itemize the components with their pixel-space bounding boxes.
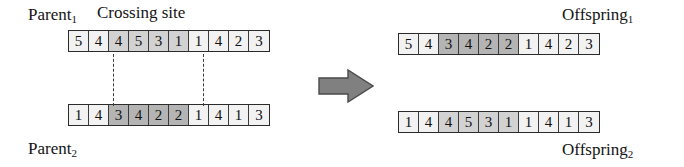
transformation-arrow-icon xyxy=(318,68,374,104)
chromosome-offspring2: 1445311413 xyxy=(398,111,600,133)
parent1-label-text: Parent xyxy=(28,5,71,24)
gene-cell: 3 xyxy=(249,31,269,51)
gene-cell: 5 xyxy=(129,31,149,51)
gene-cell: 1 xyxy=(69,105,89,125)
crossing-site-line-2 xyxy=(203,54,204,106)
gene-cell: 3 xyxy=(249,105,269,125)
gene-cell: 3 xyxy=(579,112,599,132)
offspring2-label-text: Offspring xyxy=(562,140,628,159)
parent1-label: Parent1 xyxy=(28,6,77,23)
gene-cell: 3 xyxy=(579,34,599,54)
gene-cell: 4 xyxy=(209,31,229,51)
gene-cell: 3 xyxy=(149,31,169,51)
gene-cell: 1 xyxy=(189,105,209,125)
offspring1-label-subscript: 1 xyxy=(628,13,634,25)
offspring1-label-text: Offspring xyxy=(562,5,628,24)
gene-cell: 4 xyxy=(539,34,559,54)
gene-cell: 4 xyxy=(129,105,149,125)
gene-cell: 2 xyxy=(229,31,249,51)
gene-cell: 3 xyxy=(109,105,129,125)
chromosome-parent2: 1434221413 xyxy=(68,104,270,126)
gene-cell: 1 xyxy=(169,31,189,51)
gene-cell: 4 xyxy=(419,34,439,54)
gene-cell: 4 xyxy=(539,112,559,132)
crossing-site-line-1 xyxy=(113,54,114,106)
gene-cell: 4 xyxy=(419,112,439,132)
gene-cell: 2 xyxy=(479,34,499,54)
gene-cell: 5 xyxy=(399,34,419,54)
gene-cell: 4 xyxy=(89,31,109,51)
gene-cell: 2 xyxy=(499,34,519,54)
offspring2-label: Offspring2 xyxy=(562,141,633,158)
gene-cell: 1 xyxy=(499,112,519,132)
gene-cell: 1 xyxy=(519,34,539,54)
parent2-label: Parent2 xyxy=(28,140,77,157)
gene-cell: 4 xyxy=(109,31,129,51)
gene-cell: 2 xyxy=(169,105,189,125)
offspring1-label: Offspring1 xyxy=(562,6,633,23)
gene-cell: 5 xyxy=(69,31,89,51)
gene-cell: 2 xyxy=(559,34,579,54)
gene-cell: 4 xyxy=(459,34,479,54)
gene-cell: 4 xyxy=(209,105,229,125)
parent2-label-subscript: 2 xyxy=(71,147,77,159)
crossing-site-label: Crossing site xyxy=(97,4,185,21)
gene-cell: 1 xyxy=(519,112,539,132)
parent1-label-subscript: 1 xyxy=(71,13,77,25)
chromosome-parent1: 5445311423 xyxy=(68,30,270,52)
gene-cell: 1 xyxy=(229,105,249,125)
gene-cell: 3 xyxy=(479,112,499,132)
gene-cell: 1 xyxy=(559,112,579,132)
gene-cell: 3 xyxy=(439,34,459,54)
gene-cell: 5 xyxy=(459,112,479,132)
chromosome-offspring1: 5434221423 xyxy=(398,33,600,55)
gene-cell: 1 xyxy=(189,31,209,51)
offspring2-label-subscript: 2 xyxy=(628,148,634,160)
crossover-diagram: Parent1 Crossing site Parent2 Offspring1… xyxy=(0,0,684,167)
gene-cell: 1 xyxy=(399,112,419,132)
gene-cell: 2 xyxy=(149,105,169,125)
gene-cell: 4 xyxy=(439,112,459,132)
parent2-label-text: Parent xyxy=(28,139,71,158)
gene-cell: 4 xyxy=(89,105,109,125)
